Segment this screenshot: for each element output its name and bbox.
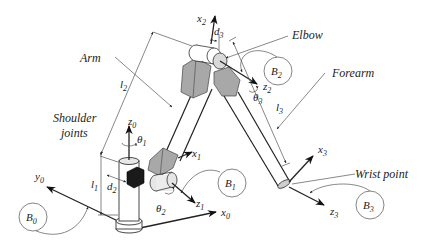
robot-arm-diagram: Arm Elbow Forearm Shoulder joints Wrist …: [0, 0, 432, 246]
text-labels: Arm Elbow Forearm Shoulder joints Wrist …: [26, 12, 409, 226]
l1-label: l1: [91, 178, 98, 193]
x0-label: x0: [220, 206, 230, 221]
x1-label: x1: [191, 147, 201, 162]
x1-axis: [178, 152, 192, 158]
z0-axis-group: [122, 126, 136, 160]
d3-label: d3: [214, 25, 224, 40]
x3-label: x3: [317, 143, 327, 158]
z1-label: z1: [195, 197, 204, 212]
x3-axis: [289, 156, 313, 182]
wrist-point-marker: [276, 178, 291, 190]
x2-label: x2: [196, 12, 206, 27]
arm-label: Arm: [79, 51, 101, 65]
shoulder-label-line1: Shoulder: [53, 111, 97, 125]
z3-label: z3: [329, 205, 338, 220]
l2-dimension: [101, 32, 153, 154]
shoulder-label-line2: joints: [59, 126, 88, 140]
l3-label: l3: [276, 101, 283, 116]
wrist-point-label: Wrist point: [355, 167, 409, 181]
theta1-label: θ1: [137, 133, 146, 148]
wrist-leader: [292, 174, 355, 184]
l2-label: l2: [120, 78, 127, 93]
z3-axis: [289, 187, 324, 205]
base-column: [116, 158, 144, 234]
arm-leader: [115, 57, 172, 107]
z1-axis: [172, 183, 195, 203]
elbow-label: Elbow: [291, 28, 323, 42]
y0-label: y0: [34, 170, 44, 185]
theta2-label: θ2: [156, 202, 165, 217]
theta3-label: θ3: [253, 91, 262, 106]
arm-link: [148, 58, 212, 191]
x0-axis: [140, 212, 216, 228]
forearm-label: Forearm: [331, 66, 375, 80]
d2-label: d2: [107, 180, 117, 195]
